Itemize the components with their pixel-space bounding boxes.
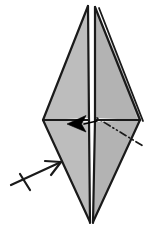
edge-upper-left-spine (88, 6, 89, 120)
edge-lower-left-spine (89, 120, 90, 223)
push-arrow-head-upper (45, 161, 61, 162)
origami-illustration (0, 0, 149, 228)
origami-diagram-figure (0, 0, 149, 228)
